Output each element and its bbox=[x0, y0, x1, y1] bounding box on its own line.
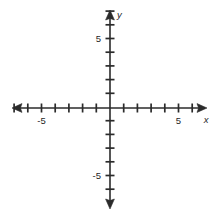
coordinate-plane-canvas: y x -5 5 5 -5 bbox=[0, 0, 217, 219]
x-axis-label: x bbox=[203, 114, 210, 125]
y-axis-label: y bbox=[116, 9, 123, 20]
y-tick-label-neg-five: -5 bbox=[93, 170, 101, 181]
x-tick-label-pos-five: 5 bbox=[176, 115, 181, 126]
y-tick-label-pos-five: 5 bbox=[96, 33, 101, 44]
x-tick-label-neg-five: -5 bbox=[37, 115, 45, 126]
y-axis-down-arrow-icon bbox=[106, 199, 115, 209]
x-axis-right-arrow-icon bbox=[197, 104, 207, 113]
coordinate-plane-figure: y x -5 5 5 -5 bbox=[0, 0, 217, 219]
y-axis-group bbox=[106, 10, 115, 209]
